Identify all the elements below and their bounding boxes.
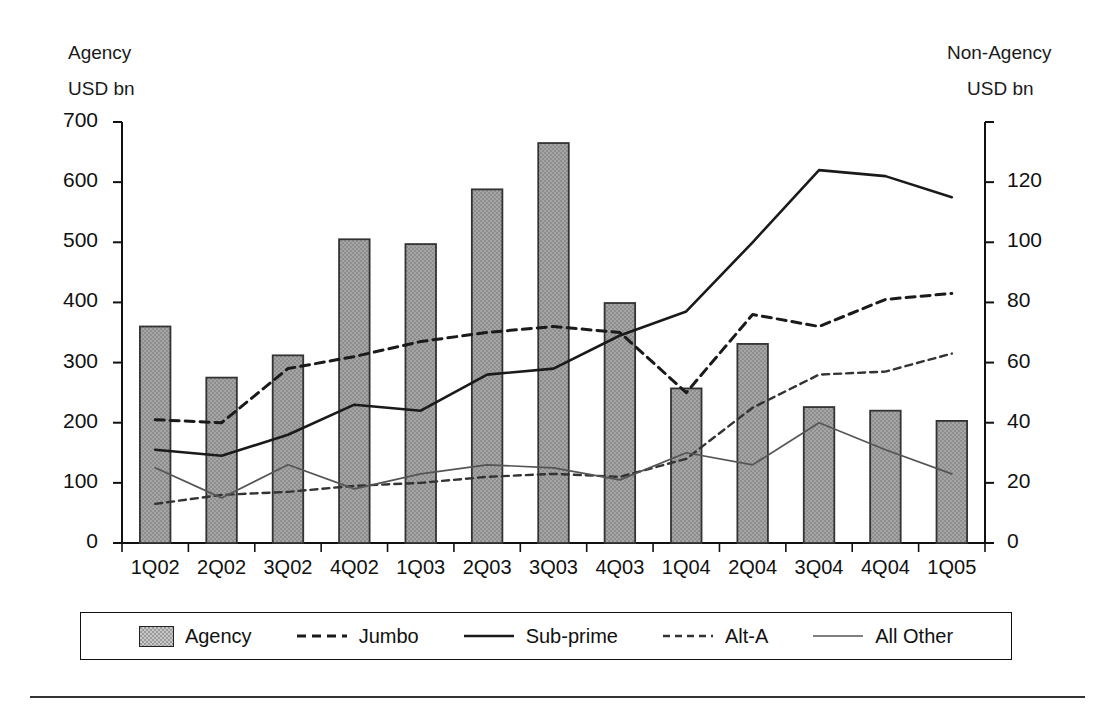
legend-gap: [618, 636, 662, 637]
legend-label: Alt-A: [725, 625, 768, 648]
legend-item-jumbo[interactable]: Jumbo: [296, 625, 419, 648]
legend-item-agency[interactable]: Agency: [139, 625, 252, 648]
bar-rect: [605, 303, 636, 543]
bar-rect: [405, 244, 436, 543]
bottom-divider: [30, 696, 1085, 698]
legend-label: All Other: [875, 625, 953, 648]
bar-rect: [538, 143, 569, 543]
bar-rect: [737, 344, 768, 543]
bar-2Q03: [472, 189, 503, 543]
legend-label: Jumbo: [359, 625, 419, 648]
legend-swatch-line-icon: [296, 631, 348, 641]
bar-rect: [273, 355, 304, 543]
legend-swatch-line-icon: [662, 631, 714, 641]
bar-rect: [671, 388, 702, 543]
bar-4Q03: [605, 303, 636, 543]
chart-figure: Agency USD bn Non-Agency USD bn 70060050…: [0, 0, 1114, 716]
legend-swatch-line-icon: [812, 631, 864, 641]
legend-gap: [768, 636, 812, 637]
legend-item-sub-prime[interactable]: Sub-prime: [463, 625, 618, 648]
bar-1Q05: [937, 421, 968, 543]
bar-rect: [140, 326, 171, 543]
bar-1Q04: [671, 388, 702, 543]
legend-swatch-line-icon: [463, 631, 515, 641]
bar-4Q04: [870, 411, 901, 543]
bar-rect: [206, 378, 237, 543]
legend-label: Sub-prime: [526, 625, 618, 648]
bar-4Q02: [339, 239, 370, 543]
bar-2Q02: [206, 378, 237, 543]
bar-1Q02: [140, 326, 171, 543]
bar-rect: [937, 421, 968, 543]
legend-swatch-bar-icon: [139, 626, 174, 647]
bar-rect: [472, 189, 503, 543]
legend-gap: [252, 636, 296, 637]
legend-gap: [419, 636, 463, 637]
chart-legend: AgencyJumboSub-primeAlt-AAll Other: [80, 612, 1012, 660]
bar-3Q02: [273, 355, 304, 543]
bar-1Q03: [405, 244, 436, 543]
bar-rect: [339, 239, 370, 543]
bar-2Q04: [737, 344, 768, 543]
plot-area: [0, 0, 1114, 716]
bar-rect: [870, 411, 901, 543]
legend-item-all-other[interactable]: All Other: [812, 625, 953, 648]
legend-label: Agency: [185, 625, 252, 648]
bar-3Q03: [538, 143, 569, 543]
legend-item-alt-a[interactable]: Alt-A: [662, 625, 768, 648]
